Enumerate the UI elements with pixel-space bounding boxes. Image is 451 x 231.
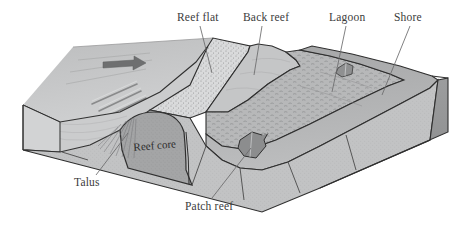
reef-block-diagram: Reef flat Back reef Lagoon Shore Talus P…	[0, 0, 451, 231]
label-back-reef: Back reef	[243, 11, 289, 23]
diagram-canvas	[0, 0, 451, 231]
label-reef-flat: Reef flat	[177, 11, 219, 23]
label-lagoon: Lagoon	[329, 11, 365, 23]
label-shore: Shore	[394, 11, 422, 23]
label-talus: Talus	[74, 176, 100, 188]
label-patch-reef: Patch reef	[185, 200, 233, 212]
